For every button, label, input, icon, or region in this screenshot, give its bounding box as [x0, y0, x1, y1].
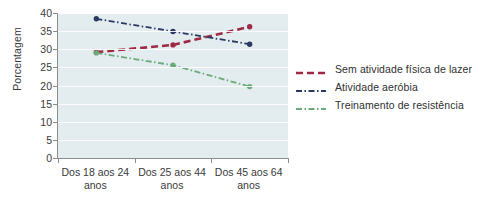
- legend-swatch-icon: [296, 100, 326, 110]
- x-axis-tick-label-line: anos: [207, 179, 291, 192]
- gridline: [58, 140, 288, 141]
- gridline: [58, 104, 288, 105]
- legend-item[interactable]: Treinamento de resistência: [296, 96, 486, 114]
- x-axis-tick-label-line: anos: [53, 179, 137, 192]
- y-axis-tick-mark: [53, 13, 57, 14]
- y-axis-tick-mark: [53, 140, 57, 141]
- data-point-marker: [247, 41, 252, 46]
- y-axis-tick-labels: 4035302520151050: [22, 0, 52, 215]
- gridline: [58, 67, 288, 68]
- x-axis-tick-label: Dos 25 aos 44anos: [130, 166, 214, 192]
- y-axis-tick-mark: [53, 104, 57, 105]
- y-axis-tick-mark: [53, 158, 57, 159]
- gridline: [58, 13, 288, 14]
- x-axis-line: [57, 158, 289, 159]
- x-axis-tick-mark: [135, 158, 136, 163]
- gridline: [58, 49, 288, 50]
- y-axis-line: [57, 13, 58, 159]
- x-axis-tick-label-line: Dos 45 aos 64: [207, 166, 291, 179]
- data-point-marker: [94, 50, 99, 55]
- plot-area: [58, 13, 288, 158]
- y-axis-tick-label: 0: [22, 152, 52, 164]
- y-axis-tick-label: 20: [22, 80, 52, 92]
- legend-label: Atividade aeróbia: [335, 81, 418, 93]
- data-point-marker: [94, 16, 99, 21]
- percentage-by-age-group-line-chart: Porcentagem 4035302520151050 Dos 18 aos …: [0, 0, 487, 215]
- gridline: [58, 31, 288, 32]
- y-axis-tick-mark: [53, 67, 57, 68]
- y-axis-tick-mark: [53, 86, 57, 87]
- x-axis-tick-label: Dos 45 aos 64anos: [207, 166, 291, 192]
- legend-swatch-icon: [296, 82, 326, 92]
- y-axis-tick-mark: [53, 31, 57, 32]
- x-axis-tick-label-line: anos: [130, 179, 214, 192]
- y-axis-tick-label: 5: [22, 134, 52, 146]
- x-axis-tick-label-line: Dos 18 aos 24: [53, 166, 137, 179]
- y-axis-tick-label: 10: [22, 116, 52, 128]
- x-axis-tick-labels: Dos 18 aos 24anosDos 25 aos 44anosDos 45…: [57, 166, 289, 206]
- y-axis-tick-label: 30: [22, 43, 52, 55]
- x-axis-tick-mark: [211, 158, 212, 163]
- y-axis-tick-label: 40: [22, 7, 52, 19]
- data-point-marker: [247, 24, 252, 29]
- x-axis-tick-label-line: Dos 25 aos 44: [130, 166, 214, 179]
- x-axis-tick-label: Dos 18 aos 24anos: [53, 166, 137, 192]
- y-axis-tick-label: 35: [22, 25, 52, 37]
- legend-item[interactable]: Atividade aeróbia: [296, 78, 486, 96]
- y-axis-tick-mark: [53, 122, 57, 123]
- legend-label: Treinamento de resistência: [335, 99, 464, 111]
- series-line: [96, 53, 249, 87]
- chart-legend: Sem atividade física de lazerAtividade a…: [296, 60, 486, 114]
- legend-swatch-icon: [296, 64, 326, 74]
- x-axis-tick-mark: [58, 158, 59, 163]
- y-axis-tick-mark: [53, 49, 57, 50]
- x-axis-tick-mark: [288, 158, 289, 163]
- y-axis-tick-label: 25: [22, 61, 52, 73]
- gridline: [58, 122, 288, 123]
- data-point-marker: [170, 42, 175, 47]
- legend-label: Sem atividade física de lazer: [335, 63, 472, 75]
- y-axis-tick-label: 15: [22, 98, 52, 110]
- gridline: [58, 86, 288, 87]
- legend-item[interactable]: Sem atividade física de lazer: [296, 60, 486, 78]
